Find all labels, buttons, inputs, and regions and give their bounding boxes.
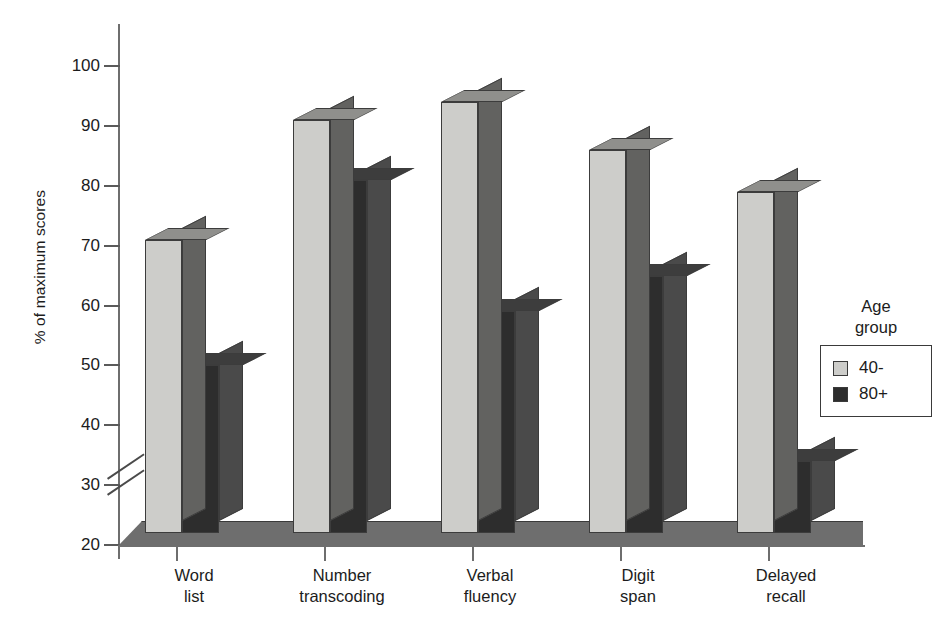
bar-front-face bbox=[441, 102, 478, 533]
x-axis-label-number-transcoding: Numbertranscoding bbox=[257, 565, 427, 607]
x-tick-3 bbox=[620, 547, 622, 561]
x-tick-0 bbox=[176, 547, 178, 561]
bar-top-face bbox=[145, 228, 230, 240]
legend: Age group 40- 80+ bbox=[820, 296, 932, 417]
x-tick-1 bbox=[324, 547, 326, 561]
bar-top-face bbox=[589, 138, 674, 150]
x-axis-label-line-1: Number bbox=[257, 565, 427, 586]
bar-front-face bbox=[589, 150, 626, 533]
x-axis-label-digit-span: Digitspan bbox=[553, 565, 723, 607]
x-axis-label-line-2: transcoding bbox=[257, 586, 427, 607]
bar-verbal-fluency-40[interactable] bbox=[441, 102, 478, 533]
x-axis-label-verbal-fluency: Verbalfluency bbox=[405, 565, 575, 607]
bar-word-list-40[interactable] bbox=[145, 240, 182, 533]
bar-front-face bbox=[737, 192, 774, 533]
bar-top-face bbox=[737, 180, 822, 192]
bar-side-face bbox=[478, 78, 502, 521]
bar-top-face bbox=[441, 90, 526, 102]
bar-side-face bbox=[626, 126, 650, 521]
bar-delayed-recall-40[interactable] bbox=[737, 192, 774, 533]
x-axis-label-line-1: Digit bbox=[553, 565, 723, 586]
x-tick-4 bbox=[768, 547, 770, 561]
legend-title-line-1: Age bbox=[820, 296, 932, 317]
bar-digit-span-40[interactable] bbox=[589, 150, 626, 533]
x-tick-2 bbox=[472, 547, 474, 561]
x-axis-label-line-2: list bbox=[109, 586, 279, 607]
legend-label-80-plus: 80+ bbox=[859, 384, 888, 404]
x-axis-label-line-1: Verbal bbox=[405, 565, 575, 586]
bar-number-transcoding-40[interactable] bbox=[293, 120, 330, 533]
legend-swatch-40-minus bbox=[833, 361, 848, 376]
bar-front-face bbox=[145, 240, 182, 533]
bar-side-face bbox=[330, 96, 354, 521]
bar-top-face bbox=[293, 108, 378, 120]
x-axis-label-line-2: span bbox=[553, 586, 723, 607]
x-axis-label-line-2: recall bbox=[701, 586, 871, 607]
bar-side-face bbox=[182, 215, 206, 521]
legend-title-line-2: group bbox=[820, 317, 932, 338]
legend-swatch-80-plus bbox=[833, 387, 848, 402]
x-axis-label-line-1: Word bbox=[109, 565, 279, 586]
x-axis-line bbox=[118, 545, 865, 547]
legend-box: 40- 80+ bbox=[820, 345, 932, 417]
bar-side-face bbox=[219, 341, 243, 521]
legend-label-40-minus: 40- bbox=[859, 358, 884, 378]
bar-side-face bbox=[515, 287, 539, 521]
bar-side-face bbox=[663, 251, 687, 521]
x-axis-label-word-list: Wordlist bbox=[109, 565, 279, 607]
bar-front-face bbox=[293, 120, 330, 533]
x-axis-label-delayed-recall: Delayedrecall bbox=[701, 565, 871, 607]
legend-entry-40-minus[interactable]: 40- bbox=[833, 355, 921, 381]
x-axis-label-line-2: fluency bbox=[405, 586, 575, 607]
legend-title: Age group bbox=[820, 296, 932, 338]
bar-side-face bbox=[774, 168, 798, 521]
bar-side-face bbox=[367, 156, 391, 521]
x-axis-label-line-1: Delayed bbox=[701, 565, 871, 586]
legend-entry-80-plus[interactable]: 80+ bbox=[833, 381, 921, 407]
bar-chart: % of maximum scores 2030405060708090100 … bbox=[0, 0, 945, 636]
